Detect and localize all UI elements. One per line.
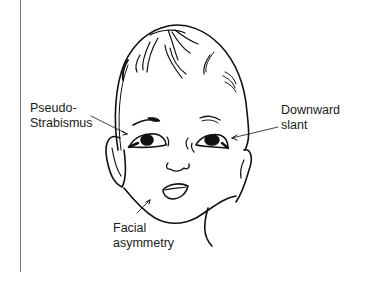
label-line: Pseudo- <box>30 101 93 116</box>
label-pseudo-strabismus: Pseudo- Strabismus <box>30 101 93 131</box>
head-outline <box>115 25 248 150</box>
left-ear <box>106 137 125 187</box>
label-line: slant <box>281 118 340 133</box>
nose <box>167 163 190 171</box>
label-line: Strabismus <box>30 116 93 131</box>
label-downward-slant: Downward slant <box>281 103 340 133</box>
neck-line <box>205 208 212 246</box>
label-line: asymmetry <box>113 236 174 251</box>
right-eyebrow <box>200 116 220 120</box>
label-line: Downward <box>281 103 340 118</box>
label-facial-asymmetry: Facial asymmetry <box>113 221 174 251</box>
facial-asymmetry-leader <box>137 200 150 213</box>
right-ear <box>236 150 251 202</box>
downward-slant-leader <box>232 127 278 138</box>
infant-face-drawing <box>0 0 367 281</box>
label-line: Facial <box>113 221 174 236</box>
mouth <box>163 184 188 199</box>
